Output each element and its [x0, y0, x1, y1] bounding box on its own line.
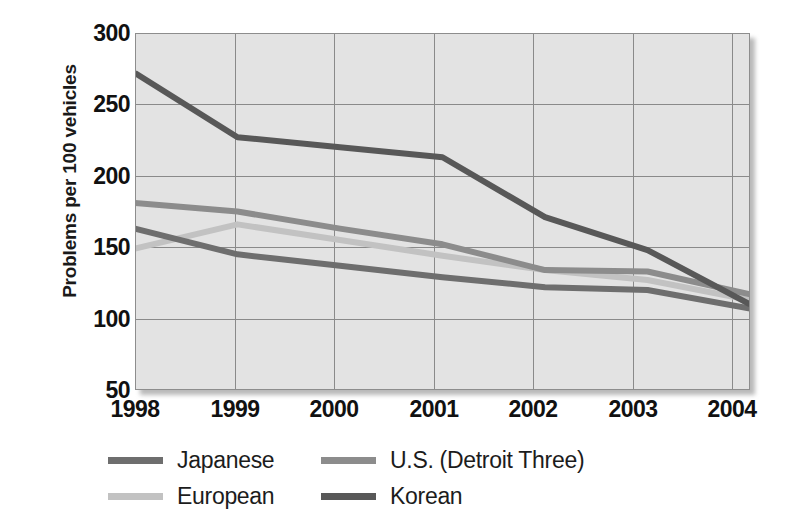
y-axis-tick-labels: 300 250 200 150 100 50 [55, 0, 130, 420]
legend-item-european: European [108, 479, 274, 513]
legend-swatch-us-detroit-three [321, 457, 376, 464]
legend-label-korean: Korean [390, 483, 462, 510]
chart-figure: Problems per 100 vehicles 300 250 200 15… [0, 0, 795, 532]
y-tick-label: 300 [60, 20, 130, 47]
y-tick-label: 100 [60, 306, 130, 333]
x-tick-label: 2003 [588, 396, 678, 423]
chart-legend: Japanese U.S. (Detroit Three) European K… [108, 443, 668, 523]
y-tick-label: 150 [60, 234, 130, 261]
legend-item-us-detroit-three: U.S. (Detroit Three) [321, 443, 584, 477]
legend-item-korean: Korean [321, 479, 462, 513]
data-series-lines [135, 33, 750, 390]
x-tick-label: 2000 [289, 396, 379, 423]
legend-label-japanese: Japanese [177, 447, 274, 474]
legend-item-japanese: Japanese [108, 443, 274, 477]
legend-swatch-european [108, 493, 163, 500]
legend-swatch-japanese [108, 457, 163, 464]
y-tick-label: 200 [60, 163, 130, 190]
legend-swatch-korean [321, 493, 376, 500]
y-tick-label: 250 [60, 91, 130, 118]
legend-label-european: European [177, 483, 274, 510]
x-tick-label: 2001 [389, 396, 479, 423]
series-line [135, 229, 750, 309]
x-tick-label: 2004 [687, 396, 777, 423]
x-tick-label: 1999 [190, 396, 280, 423]
x-tick-label: 1998 [90, 396, 180, 423]
series-line [135, 224, 750, 300]
plot-area [135, 33, 750, 390]
legend-label-us-detroit-three: U.S. (Detroit Three) [390, 447, 584, 474]
x-tick-label: 2002 [488, 396, 578, 423]
series-line [135, 73, 750, 304]
